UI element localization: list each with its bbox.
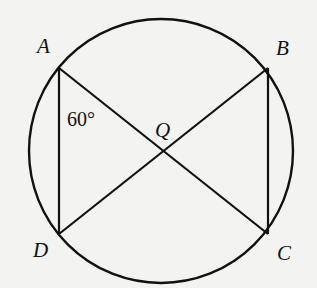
point-label-d: D (32, 238, 48, 262)
point-label-q: Q (155, 118, 170, 142)
circle (29, 19, 293, 283)
angle-label-a: 60° (67, 108, 95, 130)
point-label-b: B (276, 36, 289, 60)
point-label-c: C (277, 241, 292, 265)
point-label-a: A (35, 34, 50, 58)
geometry-diagram: A B C D Q 60° (0, 0, 317, 288)
